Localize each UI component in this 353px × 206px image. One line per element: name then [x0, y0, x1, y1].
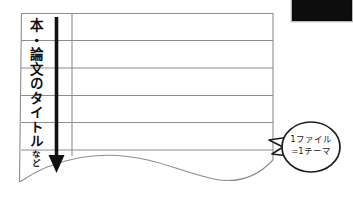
black-photo-box-inner — [294, 0, 350, 19]
table-rule-lines — [21, 14, 273, 151]
callout-balloon — [269, 122, 340, 172]
arrow-head — [49, 155, 65, 173]
table-left-edge — [20, 13, 22, 182]
diagram-canvas: 本・論文のタイトル など 1ファイル =1テーマ — [0, 0, 353, 206]
black-photo-box — [291, 0, 353, 22]
callout-bubble — [282, 122, 340, 172]
notebook-diagram-svg — [0, 0, 353, 206]
